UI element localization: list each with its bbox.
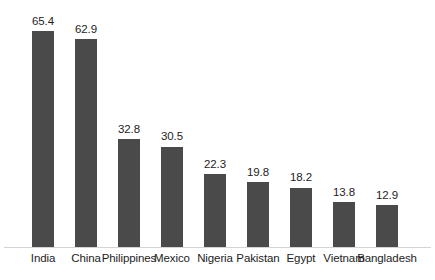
bar-rect (204, 174, 226, 248)
bars-container: 65.4 62.9 32.8 30.5 22.3 19.8 (0, 0, 435, 248)
category-label: China (71, 252, 101, 265)
bar-group: 65.4 (32, 0, 54, 248)
bar-rect (290, 188, 312, 248)
category-label: Pakistan (236, 252, 279, 265)
category-label-slot: Pakistan (247, 252, 269, 265)
category-label-slot: China (75, 252, 97, 265)
category-label-slot: India (32, 252, 54, 265)
bar-group: 18.2 (290, 0, 312, 248)
category-label-slot: Mexico (161, 252, 183, 265)
bar-value-label: 18.2 (290, 172, 312, 184)
category-label-slot: Bangladesh (376, 252, 398, 265)
category-label-slot: Vietnam (333, 252, 355, 265)
bar-value-label: 12.9 (376, 190, 398, 202)
category-label-slot: Egypt (290, 252, 312, 265)
bar-rect (247, 182, 269, 248)
bar-group: 62.9 (75, 0, 97, 248)
category-label: Bangladesh (357, 252, 417, 265)
bar-rect (376, 205, 398, 248)
x-axis-line (4, 247, 431, 248)
category-label: India (31, 252, 55, 265)
bar-value-label: 13.8 (333, 187, 355, 199)
category-label: Nigeria (197, 252, 233, 265)
category-label: Philippines (102, 252, 157, 265)
bar-value-label: 19.8 (247, 167, 269, 179)
bar-value-label: 65.4 (32, 16, 54, 28)
bar-rect (333, 202, 355, 248)
bar-value-label: 32.8 (118, 124, 140, 136)
category-label-slot: Philippines (118, 252, 140, 265)
category-label-slot: Nigeria (204, 252, 226, 265)
category-label: Mexico (154, 252, 190, 265)
bar-value-label: 22.3 (204, 159, 226, 171)
bar-chart: 65.4 62.9 32.8 30.5 22.3 19.8 (0, 0, 435, 280)
bar-group: 32.8 (118, 0, 140, 248)
bar-rect (32, 31, 54, 248)
bar-group: 19.8 (247, 0, 269, 248)
bar-rect (75, 39, 97, 248)
plot-area: 65.4 62.9 32.8 30.5 22.3 19.8 (0, 0, 435, 248)
category-label: Egypt (287, 252, 316, 265)
category-labels-container: India China Philippines Mexico Nigeria P… (0, 252, 435, 265)
bar-rect (161, 147, 183, 248)
bar-group: 13.8 (333, 0, 355, 248)
bar-value-label: 30.5 (161, 131, 183, 143)
bar-group: 30.5 (161, 0, 183, 248)
bar-rect (118, 139, 140, 248)
bar-value-label: 62.9 (75, 24, 97, 36)
bar-group: 12.9 (376, 0, 398, 248)
bar-group: 22.3 (204, 0, 226, 248)
